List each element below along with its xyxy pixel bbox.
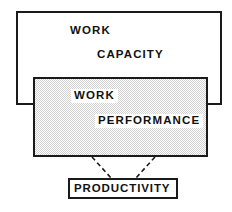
label-work-capacity-line1: WORK <box>70 25 111 37</box>
diagram-canvas: WORK CAPACITY WORK PERFORMANCE PRODUCTIV… <box>0 0 232 212</box>
label-work-capacity-line2: CAPACITY <box>97 49 164 61</box>
right-connector-line <box>135 157 155 179</box>
label-work-performance-line2: PERFORMANCE <box>95 114 203 128</box>
label-productivity: PRODUCTIVITY <box>74 183 170 195</box>
left-connector-line <box>92 157 112 179</box>
label-work-performance-line1: WORK <box>71 89 118 103</box>
